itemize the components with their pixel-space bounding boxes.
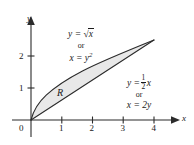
upper-curve-equation-2: x = y2 (50, 51, 112, 65)
upper-curve-annotation: y = √x or x = y2 (50, 28, 112, 65)
upper-eq1-rel: = (75, 29, 81, 39)
lower-line-annotation: y =12x or x = 2y (104, 74, 174, 112)
lower-eq1-rel: = (134, 78, 140, 88)
fraction-one-half: 12 (141, 74, 147, 90)
region-label-R: R (57, 88, 63, 98)
sqrt-icon: √x (83, 28, 93, 41)
lower-line-equation-1: y =12x (104, 74, 174, 90)
lower-line-equation-2: x = 2y (104, 100, 174, 112)
fraction-numerator: 1 (141, 74, 147, 82)
y-tick-label-2: 2 (19, 52, 24, 61)
upper-eq2-exponent: 2 (89, 51, 92, 58)
y-tick-label-1: 1 (19, 84, 24, 93)
upper-eq2-base: x = y (69, 53, 89, 63)
lower-eq1-lhs: y (127, 78, 131, 88)
x-tick-label-3: 3 (121, 124, 126, 133)
x-tick-label-1: 1 (59, 124, 64, 133)
x-tick-label-4: 4 (152, 124, 157, 133)
lower-eq2-trail: 2y (142, 100, 151, 110)
lower-eq1-trail: x (147, 78, 151, 88)
lower-line-connector: or (104, 90, 174, 100)
lower-eq2-lhs: x (127, 100, 131, 110)
x-tick-label-2: 2 (90, 124, 95, 133)
figure-region-between-curves: x y 0 1 2 3 4 1 2 R y = √x or x = y2 y =… (0, 0, 194, 145)
upper-eq1-lhs: y (68, 29, 72, 39)
y-axis-label: y (27, 14, 31, 23)
x-axis-arrowhead (171, 116, 180, 124)
x-axis-label: x (182, 114, 186, 123)
fraction-denominator: 2 (141, 82, 147, 91)
lower-eq2-rel: = (133, 100, 139, 110)
upper-curve-equation-1: y = √x (50, 28, 112, 41)
origin-tick-label: 0 (19, 124, 24, 133)
upper-curve-connector: or (50, 41, 112, 51)
